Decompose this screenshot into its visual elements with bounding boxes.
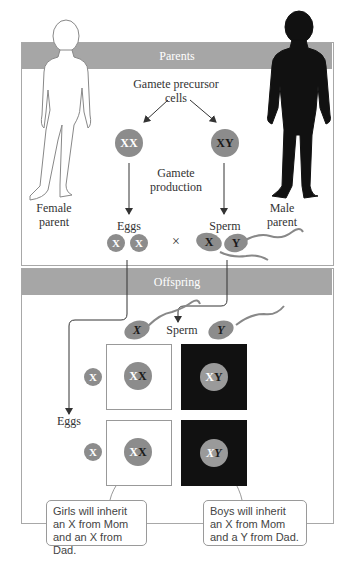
- parent-sperm-x-label: X: [202, 235, 216, 249]
- girls-callout: Girls will inherit an X from Mom and an …: [46, 500, 147, 546]
- punnett-cell-male-2: XY: [181, 420, 247, 486]
- sperm-label: Sperm: [203, 219, 247, 233]
- offspring-eggs-label: Eggs: [50, 414, 88, 428]
- offspring-sperm-x-label: X: [130, 323, 144, 337]
- female-precursor-cell: XX: [115, 129, 143, 157]
- genotype-circle: XY: [200, 439, 228, 467]
- offspring-egg-row-2: X: [84, 443, 102, 461]
- offspring-sperm-y-label: Y: [214, 323, 228, 337]
- male-figure-icon: [268, 11, 331, 198]
- parent-sperm-y-label: Y: [229, 236, 243, 250]
- precursor-label: Gamete precursor cells: [120, 77, 232, 105]
- genotype-circle: XY: [200, 363, 228, 391]
- offspring-sperm-label: Sperm: [160, 323, 204, 337]
- eggs-label: Eggs: [110, 219, 148, 233]
- cross-symbol: ×: [168, 235, 184, 249]
- female-parent-label: Female parent: [28, 201, 80, 229]
- gamete-production-label: Gamete production: [140, 166, 212, 194]
- male-parent-label: Male parent: [258, 201, 306, 229]
- egg-1: X: [107, 234, 125, 252]
- genotype-circle: XX: [124, 438, 152, 466]
- genotype-circle: XX: [124, 362, 152, 390]
- boys-callout: Boys will inherit an X from Mom and a Y …: [203, 500, 307, 546]
- offspring-egg-row-1: X: [84, 368, 102, 386]
- male-precursor-cell: XY: [211, 129, 239, 157]
- punnett-cell-male-1: XY: [181, 344, 247, 410]
- punnett-cell-female-2: XX: [106, 420, 172, 486]
- female-figure-icon: [30, 20, 91, 200]
- egg-2: X: [130, 234, 148, 252]
- punnett-cell-female-1: XX: [106, 344, 172, 410]
